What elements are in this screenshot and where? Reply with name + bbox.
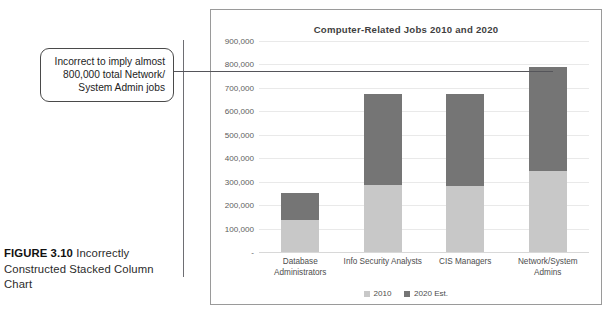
figure-caption: FIGURE 3.10 Incorrectly Constructed Stac… bbox=[4, 246, 182, 293]
legend-item[interactable]: 2020 Est. bbox=[404, 289, 448, 298]
bar-segment-2010[interactable] bbox=[529, 171, 567, 252]
legend-item[interactable]: 2010 bbox=[364, 289, 392, 298]
chart-legend: 20102020 Est. bbox=[211, 289, 601, 298]
x-axis-category-label: CIS Managers bbox=[424, 256, 507, 278]
bar-slot bbox=[259, 41, 342, 252]
chart-plot-area: 900,000800,000700,000600,000500,000400,0… bbox=[259, 41, 589, 252]
legend-label: 2010 bbox=[373, 289, 391, 298]
y-axis-tick-label: 800,000 bbox=[225, 60, 254, 69]
legend-swatch-icon bbox=[404, 291, 410, 297]
chart-title: Computer-Related Jobs 2010 and 2020 bbox=[211, 24, 601, 35]
y-axis-tick-label: 300,000 bbox=[225, 177, 254, 186]
gridline bbox=[259, 252, 589, 253]
bar-slot bbox=[424, 41, 507, 252]
y-axis-tick-label: 500,000 bbox=[225, 130, 254, 139]
annotation-leader-line bbox=[174, 71, 553, 72]
annotation-callout: Incorrect to imply almost 800,000 total … bbox=[40, 48, 174, 102]
bar-segment-2020-est[interactable] bbox=[364, 94, 402, 185]
y-axis-tick-label: 600,000 bbox=[225, 107, 254, 116]
x-axis-category-label: Database Administrators bbox=[259, 256, 342, 278]
y-axis-tick-label: - bbox=[251, 248, 254, 257]
chart-x-axis-labels: Database AdministratorsInfo Security Ana… bbox=[259, 256, 589, 278]
chart-bars bbox=[259, 41, 589, 252]
figure-number: FIGURE 3.10 bbox=[4, 247, 73, 259]
x-axis-category-label: Info Security Analysts bbox=[342, 256, 425, 278]
bar-segment-2020-est[interactable] bbox=[446, 94, 484, 187]
stacked-bar[interactable] bbox=[364, 94, 402, 252]
bar-segment-2010[interactable] bbox=[364, 185, 402, 252]
x-axis-category-label: Network/System Admins bbox=[507, 256, 590, 278]
chart-container: Computer-Related Jobs 2010 and 2020 900,… bbox=[210, 9, 602, 305]
y-axis-tick-label: 900,000 bbox=[225, 37, 254, 46]
legend-label: 2020 Est. bbox=[414, 289, 448, 298]
annotation-callout-text: Incorrect to imply almost 800,000 total … bbox=[55, 56, 165, 93]
bar-slot bbox=[507, 41, 590, 252]
y-axis-tick-label: 700,000 bbox=[225, 83, 254, 92]
y-axis-tick-label: 100,000 bbox=[225, 224, 254, 233]
legend-swatch-icon bbox=[364, 291, 370, 297]
stacked-bar[interactable] bbox=[281, 193, 319, 252]
bar-slot bbox=[342, 41, 425, 252]
stacked-bar[interactable] bbox=[529, 67, 567, 252]
stacked-bar[interactable] bbox=[446, 94, 484, 252]
bar-segment-2020-est[interactable] bbox=[281, 193, 319, 220]
bar-segment-2020-est[interactable] bbox=[529, 67, 567, 171]
bar-segment-2010[interactable] bbox=[281, 220, 319, 252]
bar-segment-2010[interactable] bbox=[446, 186, 484, 252]
y-axis-tick-label: 400,000 bbox=[225, 154, 254, 163]
y-axis-tick-label: 200,000 bbox=[225, 201, 254, 210]
annotation-vertical-rule bbox=[183, 40, 184, 277]
